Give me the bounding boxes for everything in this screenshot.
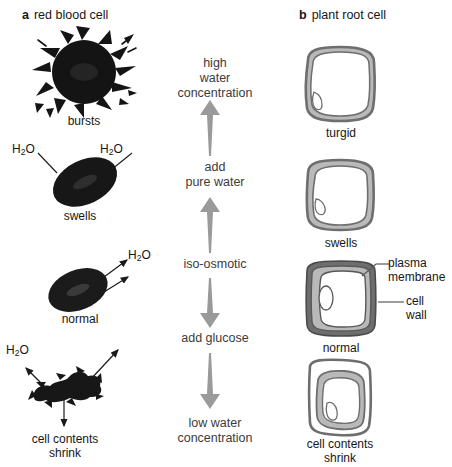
gradient-add-line2: pure water — [162, 175, 268, 190]
rbc-swells-water-label-left: H2O — [12, 142, 35, 157]
gradient-add-pure-water-label: add pure water — [162, 160, 268, 190]
gradient-iso-osmotic-label: iso-osmotic — [162, 257, 268, 272]
rbc-swells-caption: swells — [20, 209, 140, 223]
rbc-normal-water-label: H2O — [128, 248, 151, 263]
plant-turgid-caption: turgid — [298, 126, 384, 140]
rbc-bursts-shape — [24, 26, 144, 118]
cell-wall-label-line2: wall — [406, 308, 427, 322]
gradient-arrow-up-2 — [197, 197, 223, 253]
gradient-top-label: high water concentration — [162, 56, 268, 101]
rbc-swells-water-label-right: H2O — [100, 142, 123, 157]
plant-normal-caption: normal — [300, 341, 382, 355]
rbc-shrink-caption-line2: shrink — [10, 446, 120, 460]
gradient-bottom-line1: low water — [162, 416, 268, 431]
gradient-add-glucose-label: add glucose — [162, 331, 268, 346]
gradient-bottom-label: low water concentration — [162, 416, 268, 446]
rbc-shrink-water-label: H2O — [6, 343, 29, 358]
rbc-normal-caption: normal — [30, 312, 130, 326]
plant-turgid-shape — [298, 44, 384, 124]
plasma-membrane-label: plasma membrane — [388, 256, 445, 285]
cell-wall-label-line1: cell — [406, 294, 427, 308]
panel-b-marker: b — [299, 8, 307, 22]
plant-shrink-shape — [298, 356, 384, 440]
gradient-arrow-down-2 — [197, 353, 223, 409]
gradient-add-line1: add — [162, 160, 268, 175]
rbc-shrink-group — [6, 340, 166, 430]
plasma-membrane-label-line1: plasma — [388, 256, 445, 270]
plant-shrink-caption-line2: shrink — [290, 451, 390, 465]
rbc-bursts-caption: bursts — [24, 114, 144, 128]
gradient-top-line3: concentration — [162, 86, 268, 101]
plant-shrink-caption-line1: cell contents — [290, 437, 390, 451]
panel-a-header: ared blood cell — [22, 8, 108, 22]
panel-a-title: red blood cell — [34, 8, 108, 22]
gradient-arrow-up-1 — [197, 100, 223, 156]
cell-wall-label: cell wall — [406, 294, 427, 323]
panel-b-header: bplant root cell — [299, 8, 386, 22]
figure-canvas: ared blood cell — [0, 0, 452, 467]
plasma-membrane-label-line2: membrane — [388, 270, 445, 284]
plant-shrink-caption: cell contents shrink — [290, 437, 390, 465]
gradient-top-line2: water — [162, 71, 268, 86]
gradient-top-line1: high — [162, 56, 268, 71]
gradient-arrow-down-1 — [197, 278, 223, 328]
panel-b-title: plant root cell — [312, 8, 386, 22]
rbc-shrink-caption-line1: cell contents — [10, 432, 120, 446]
panel-a-marker: a — [22, 8, 29, 22]
rbc-shrink-caption: cell contents shrink — [10, 432, 120, 460]
plant-swells-caption: swells — [298, 236, 384, 250]
gradient-bottom-line2: concentration — [162, 431, 268, 446]
plant-swells-shape — [300, 157, 382, 233]
